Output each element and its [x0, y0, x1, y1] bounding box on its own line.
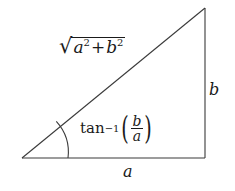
fraction-b-over-a: ba: [131, 114, 144, 144]
radicand-operator: +: [90, 37, 106, 57]
triangle-drawing: [0, 0, 235, 191]
radicand-group: a2+b2: [71, 37, 125, 56]
radicand-term-a: a: [73, 37, 83, 57]
fraction-numerator: b: [131, 114, 144, 128]
fraction-denominator: a: [131, 128, 143, 143]
hypotenuse-label: √ a2+b2: [59, 36, 125, 55]
angle-arc: [56, 121, 68, 158]
radicand-exponent-b: 2: [117, 37, 123, 48]
paren-close: ): [145, 118, 153, 140]
side-a-label: a: [123, 164, 133, 180]
radicand-term-b: b: [106, 37, 117, 57]
paren-open: (: [122, 118, 130, 140]
tan-function-name: tan: [80, 121, 105, 136]
triangle-figure: √ a2+b2 tan−1(ba) b a: [0, 0, 235, 191]
angle-label: tan−1(ba): [80, 114, 155, 144]
radical-icon: √: [59, 37, 72, 56]
side-b-label: b: [209, 82, 219, 98]
radicand-exponent-a: 2: [84, 37, 90, 48]
